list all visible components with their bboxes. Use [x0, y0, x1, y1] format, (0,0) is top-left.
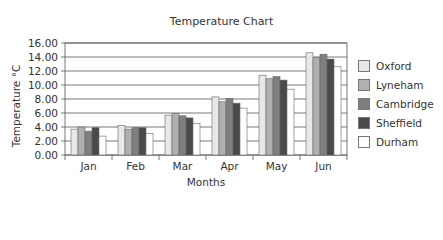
bar-lyneham	[219, 102, 226, 155]
legend-label: Sheffield	[376, 117, 422, 129]
bar-sheffield	[280, 80, 287, 155]
legend-label: Oxford	[376, 60, 411, 72]
y-tick-label: 0.00	[35, 149, 58, 161]
y-tick-label: 14.00	[28, 51, 58, 63]
legend: Oxford Lyneham Cambridge Sheffield Durha…	[358, 56, 434, 151]
y-tick-label: 16.00	[28, 37, 58, 49]
legend-item-oxford: Oxford	[358, 56, 434, 75]
x-tick-label: Jun	[314, 160, 331, 172]
bar-durham	[287, 89, 294, 155]
legend-item-cambridge: Cambridge	[358, 94, 434, 113]
bar-sheffield	[327, 59, 334, 155]
legend-label: Durham	[376, 136, 418, 148]
bar-cambridge	[273, 77, 280, 155]
y-tick-label: 4.00	[35, 121, 58, 133]
legend-swatch-cambridge	[358, 98, 370, 110]
bar-lyneham	[172, 114, 179, 155]
bar-durham	[99, 136, 106, 155]
bar-durham	[146, 133, 153, 155]
y-tick-label: 6.00	[35, 107, 58, 119]
bar-sheffield	[186, 118, 193, 155]
bar-sheffield	[233, 103, 240, 155]
legend-item-durham: Durham	[358, 132, 434, 151]
bar-lyneham	[313, 58, 320, 155]
y-axis-label: Temperature °C	[10, 46, 22, 166]
bar-durham	[193, 124, 200, 156]
bar-cambridge	[179, 116, 186, 155]
bar-lyneham	[125, 129, 132, 155]
bar-lyneham	[266, 79, 273, 155]
x-tick-label: Mar	[173, 160, 193, 172]
legend-label: Lyneham	[376, 79, 424, 91]
bar-cambridge	[85, 131, 92, 155]
legend-item-lyneham: Lyneham	[358, 75, 434, 94]
bar-oxford	[259, 75, 266, 155]
y-tick-label: 12.00	[28, 65, 58, 77]
bar-durham	[240, 108, 247, 155]
legend-label: Cambridge	[376, 98, 434, 110]
bar-oxford	[306, 53, 313, 155]
bar-cambridge	[132, 128, 139, 155]
bar-oxford	[118, 126, 125, 155]
bar-oxford	[71, 129, 78, 155]
y-tick-label: 2.00	[35, 135, 58, 147]
legend-swatch-lyneham	[358, 79, 370, 91]
legend-swatch-sheffield	[358, 117, 370, 129]
x-tick-label: Jan	[79, 160, 96, 172]
bar-oxford	[212, 97, 219, 155]
x-tick-label: May	[266, 160, 288, 172]
x-axis-label: Months	[65, 176, 347, 188]
x-tick-label: Apr	[220, 160, 239, 172]
bar-sheffield	[92, 128, 99, 155]
bar-durham	[334, 67, 341, 155]
y-tick-label: 10.00	[28, 79, 58, 91]
legend-swatch-durham	[358, 136, 370, 148]
legend-swatch-oxford	[358, 60, 370, 72]
bar-cambridge	[320, 54, 327, 155]
y-tick-label: 8.00	[35, 93, 58, 105]
bar-oxford	[165, 115, 172, 155]
bar-lyneham	[78, 127, 85, 155]
x-tick-label: Feb	[126, 160, 145, 172]
bar-cambridge	[226, 98, 233, 155]
legend-item-sheffield: Sheffield	[358, 113, 434, 132]
bar-sheffield	[139, 128, 146, 155]
